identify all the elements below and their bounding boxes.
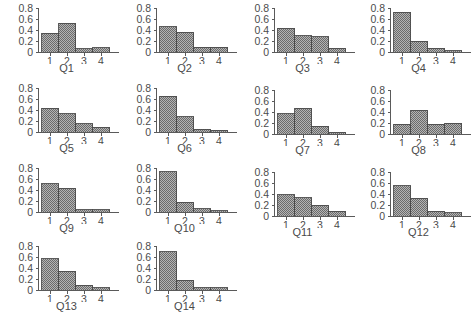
y-tick-label: 0.6 <box>254 13 269 25</box>
y-tick-label: 0.6 <box>136 13 151 25</box>
y-tick-label: 0.2 <box>18 35 33 47</box>
histogram-panel: 00.20.40.60.81234Q10 <box>126 162 243 242</box>
y-tick-label: 0.8 <box>18 240 33 252</box>
y-tick-label: 0.2 <box>254 117 269 129</box>
histogram-bar <box>394 124 411 134</box>
histogram-bar <box>445 213 462 216</box>
histogram-panel: 00.20.40.60.81234Q9 <box>8 162 125 242</box>
histogram-bar <box>76 124 93 132</box>
panel-title: Q10 <box>126 222 243 235</box>
histogram-bar <box>329 211 346 216</box>
histogram-panel: 00.20.40.60.81234Q5 <box>8 82 125 162</box>
histogram-bar <box>177 202 194 212</box>
panel-title: Q1 <box>8 62 125 75</box>
y-tick-label: 0 <box>379 128 385 140</box>
histogram-bar <box>194 288 211 290</box>
histogram-bar <box>59 114 76 132</box>
y-tick-label: 0.8 <box>136 240 151 252</box>
panel-title: Q12 <box>360 226 475 239</box>
panel-plot-area: 00.20.40.60.81234 <box>360 2 475 64</box>
y-tick-label: 0 <box>379 210 385 222</box>
y-tick-label: 0.4 <box>370 24 385 36</box>
y-tick-label: 0.6 <box>18 93 33 105</box>
histogram-bar <box>329 48 346 52</box>
y-tick-label: 0 <box>27 126 33 138</box>
panel-plot-area: 00.20.40.60.81234 <box>8 82 125 144</box>
panel-plot-area: 00.20.40.60.81234 <box>126 162 243 224</box>
histogram-bar <box>312 205 329 216</box>
y-tick-label: 0 <box>379 46 385 58</box>
y-tick-label: 0.6 <box>370 95 385 107</box>
y-tick-label: 0.4 <box>18 24 33 36</box>
y-tick-label: 0.4 <box>136 262 151 274</box>
y-tick-label: 0 <box>263 128 269 140</box>
histogram-bar <box>211 47 228 52</box>
histogram-bar <box>445 123 462 134</box>
panel-title: Q8 <box>360 144 475 157</box>
histogram-bar <box>411 41 428 52</box>
panel-plot-area: 00.20.40.60.81234 <box>8 162 125 224</box>
histogram-bar <box>59 188 76 212</box>
histogram-bar <box>445 51 462 52</box>
histogram-bar <box>329 132 346 134</box>
y-tick-label: 0.8 <box>136 162 151 174</box>
histogram-bar <box>59 23 76 52</box>
histogram-panel: 00.20.40.60.81234Q1 <box>8 2 125 82</box>
histogram-bar <box>194 129 211 132</box>
y-tick-label: 0.4 <box>254 24 269 36</box>
panel-plot-area: 00.20.40.60.81234 <box>244 166 361 228</box>
panel-plot-area: 00.20.40.60.81234 <box>126 82 243 144</box>
histogram-bar <box>76 49 93 52</box>
y-tick-label: 0.8 <box>136 82 151 94</box>
panel-plot-area: 00.20.40.60.81234 <box>126 240 243 302</box>
panel-title: Q2 <box>126 62 243 75</box>
histogram-bar <box>177 117 194 132</box>
histogram-bar <box>93 127 110 132</box>
y-tick-label: 0.4 <box>18 104 33 116</box>
histogram-bar <box>428 211 445 216</box>
y-tick-label: 0.8 <box>254 2 269 14</box>
y-tick-label: 0.6 <box>18 251 33 263</box>
histogram-panel: 00.20.40.60.81234Q13 <box>8 240 125 320</box>
histogram-bar <box>428 48 445 52</box>
histogram-panel: 00.20.40.60.81234Q7 <box>244 84 361 164</box>
histogram-bar <box>160 27 177 52</box>
panel-title: Q5 <box>8 142 125 155</box>
y-tick-label: 0.6 <box>254 177 269 189</box>
histogram-bar <box>312 126 329 134</box>
y-tick-label: 0.2 <box>136 273 151 285</box>
y-tick-label: 0 <box>27 284 33 296</box>
panel-title: Q13 <box>8 300 125 313</box>
panel-title: Q11 <box>244 226 361 239</box>
y-tick-label: 0.4 <box>370 106 385 118</box>
y-tick-label: 0.4 <box>136 184 151 196</box>
histogram-panel: 00.20.40.60.81234Q11 <box>244 166 361 246</box>
y-tick-label: 0.4 <box>370 188 385 200</box>
y-tick-label: 0.6 <box>18 173 33 185</box>
histogram-bar <box>93 210 110 212</box>
histogram-bar <box>177 32 194 52</box>
y-tick-label: 0.6 <box>18 13 33 25</box>
histogram-bar <box>76 285 93 290</box>
y-tick-label: 0.6 <box>136 93 151 105</box>
histogram-panel: 00.20.40.60.81234Q8 <box>360 84 475 164</box>
histogram-bar <box>76 210 93 212</box>
histogram-bar <box>160 172 177 212</box>
histogram-bar <box>211 288 228 290</box>
panel-plot-area: 00.20.40.60.81234 <box>8 2 125 64</box>
y-tick-label: 0 <box>27 206 33 218</box>
histogram-bar <box>211 130 228 132</box>
panel-plot-area: 00.20.40.60.81234 <box>360 166 475 228</box>
panel-title: Q4 <box>360 62 475 75</box>
y-tick-label: 0 <box>145 126 151 138</box>
y-tick-label: 0.2 <box>254 35 269 47</box>
y-tick-label: 0.8 <box>370 2 385 14</box>
y-tick-label: 0 <box>145 284 151 296</box>
histogram-panel: 00.20.40.60.81234Q6 <box>126 82 243 162</box>
histogram-bar <box>93 48 110 52</box>
y-tick-label: 0.2 <box>254 199 269 211</box>
histogram-panel: 00.20.40.60.81234Q2 <box>126 2 243 82</box>
y-tick-label: 0.2 <box>136 35 151 47</box>
y-tick-label: 0.2 <box>136 115 151 127</box>
